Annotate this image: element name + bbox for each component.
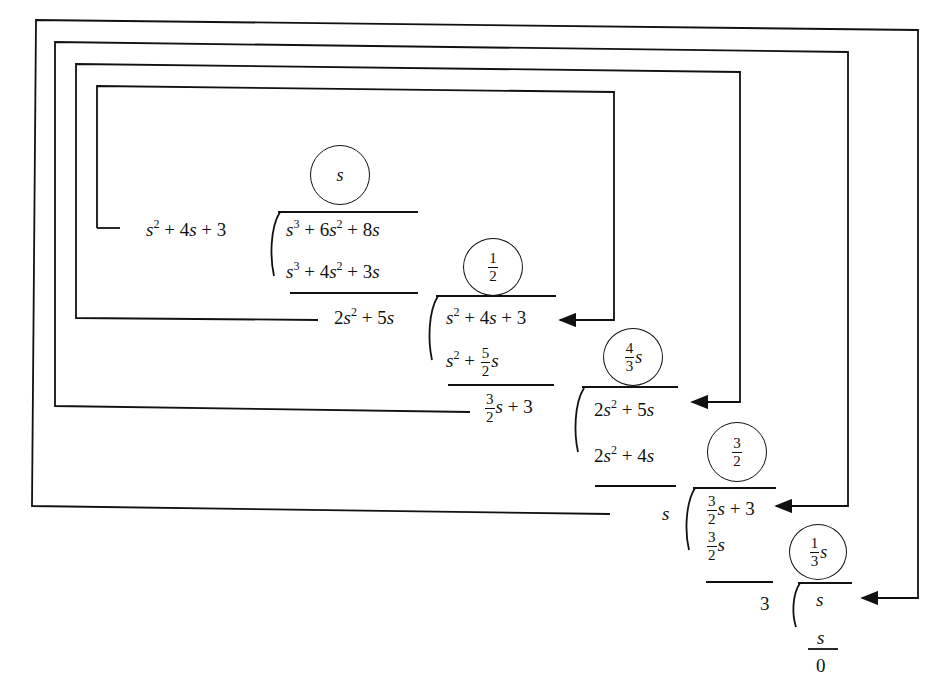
dividend-2: s2 + 4s + 3 (446, 308, 526, 327)
quotient-5-circle: 13s (789, 524, 847, 580)
subtract-3: 2s2 + 4s (594, 446, 654, 465)
subtract-2: s2 + 52s (446, 346, 499, 379)
remainder-5: 0 (816, 656, 826, 675)
feedback-wires (0, 0, 952, 690)
remainder-3: s (662, 504, 669, 523)
dividend-5: s (816, 590, 823, 609)
remainder-4: 3 (760, 594, 770, 613)
fraction: 43 (625, 341, 635, 374)
quotient-4-circle: 32 (707, 422, 767, 482)
dividend-1: s3 + 6s2 + 8s (286, 220, 380, 239)
fraction: 32 (732, 436, 742, 469)
dividend-4: 32s + 3 (706, 494, 755, 527)
subtract-1: s3 + 4s2 + 3s (286, 262, 380, 281)
dividend-3: 2s2 + 5s (594, 400, 654, 419)
wire-step1 (97, 86, 614, 320)
quotient-1-circle: s (310, 145, 370, 205)
divisor-1: s2 + 4s + 3 (146, 220, 226, 239)
subtract-5: s (817, 628, 824, 647)
quotient-3-circle: 43s (603, 328, 663, 386)
quotient-2-circle: 12 (463, 238, 523, 296)
remainder-2: 32s + 3 (484, 392, 533, 425)
fraction: 13 (810, 536, 820, 569)
fraction: 12 (488, 251, 498, 284)
subtract-4: 32s (706, 530, 725, 563)
remainder-1: 2s2 + 5s (334, 308, 394, 327)
